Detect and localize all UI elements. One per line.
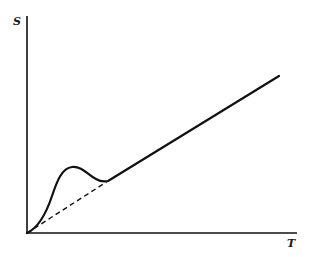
s-vs-t-diagram: S T: [0, 0, 313, 257]
y-axis-label: S: [13, 15, 21, 28]
x-axis-label: T: [287, 237, 296, 250]
dashed-reference-line: [27, 181, 108, 233]
